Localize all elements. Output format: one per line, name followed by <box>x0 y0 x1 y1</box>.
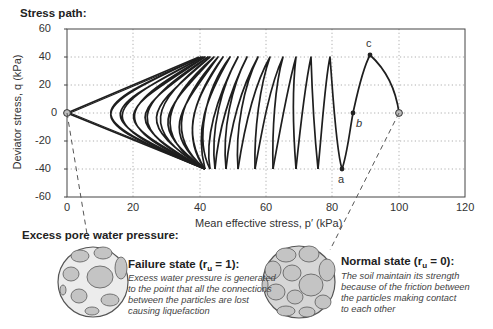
x-tick-0: 0 <box>64 201 70 213</box>
x-tick-120: 120 <box>456 201 474 213</box>
y-axis-label: Deviator stress, q (kPa) <box>11 47 23 177</box>
normal-desc-line: the particles making contact <box>341 293 470 304</box>
x-tick-80: 80 <box>326 201 338 213</box>
x-tick-100: 100 <box>390 201 408 213</box>
point-c-marker <box>368 53 373 58</box>
point-a-label: a <box>338 173 344 185</box>
x-tick-60: 60 <box>260 201 272 213</box>
normal-desc-line: because of the friction between <box>341 282 470 293</box>
failure-state-description: Excess water pressure is generated to th… <box>128 273 276 317</box>
y-tick-40: 40 <box>39 50 51 62</box>
failure-desc-line: between the particles are lost <box>128 295 276 306</box>
failure-desc-line: to the point that all the connections <box>128 284 276 295</box>
x-axis-label: Mean effective stress, p′ (kPa) <box>195 217 342 229</box>
y-tick-20: 20 <box>39 78 51 90</box>
normal-title-end: = 0): <box>427 255 454 267</box>
point-c-label: c <box>366 37 372 49</box>
stress-path-series <box>67 55 399 169</box>
leader-line-failure <box>67 113 88 240</box>
point-b-marker <box>351 111 356 116</box>
x-tick-20: 20 <box>127 201 139 213</box>
failure-desc-line: Excess water pressure is generated <box>128 273 276 284</box>
failure-title-text: Failure state (r <box>128 258 207 270</box>
pore-pressure-heading: Excess pore water pressure: <box>22 229 179 241</box>
y-tick-neg40: -40 <box>35 162 51 174</box>
failure-state-particles-illustration <box>58 247 128 317</box>
failure-title-end: = 1): <box>212 258 239 270</box>
y-tick-neg20: -20 <box>35 134 51 146</box>
x-tick-40: 40 <box>194 201 206 213</box>
y-tick-60: 60 <box>39 22 51 34</box>
normal-state-title: Normal state (ru = 0): <box>341 255 454 270</box>
failure-state-title: Failure state (ru = 1): <box>128 258 239 273</box>
point-a-marker <box>340 167 345 172</box>
point-b-label: b <box>356 117 362 129</box>
normal-desc-line: to each other <box>341 304 470 315</box>
normal-title-text: Normal state (r <box>341 255 422 267</box>
failure-desc-line: causing liquefaction <box>128 306 276 317</box>
y-tick-0: 0 <box>51 106 57 118</box>
normal-state-description: The soil maintain its strength because o… <box>341 271 470 315</box>
normal-desc-line: The soil maintain its strength <box>341 271 470 282</box>
y-tick-neg60: -60 <box>35 190 51 202</box>
